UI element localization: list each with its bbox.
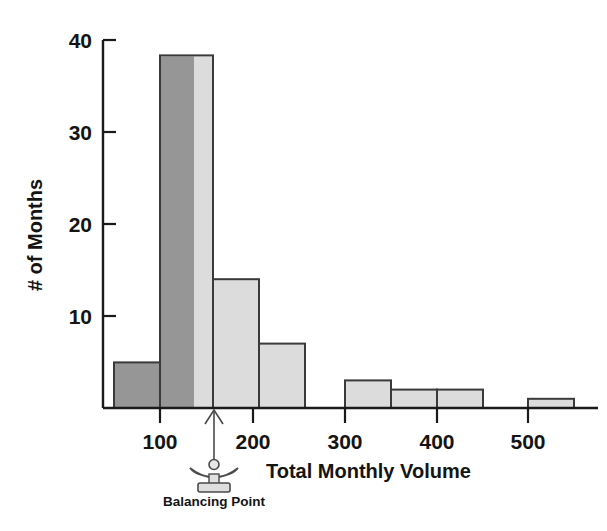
- x-tick-label-200: 200: [235, 430, 270, 453]
- bar-300-350: [345, 380, 391, 408]
- x-axis-title: Total Monthly Volume: [266, 460, 471, 482]
- y-tick-label-40: 40: [69, 29, 92, 52]
- bar-200-250: [259, 344, 305, 408]
- bar-150-200: [213, 279, 259, 408]
- x-tick-label-300: 300: [327, 430, 362, 453]
- bar-400-450: [437, 390, 483, 408]
- y-tick-label-10: 10: [69, 305, 92, 328]
- chart-canvas: 40 30 20 10 100 200 300 400 500 # of Mon…: [0, 0, 607, 531]
- bar-350-400: [391, 390, 437, 408]
- x-tick-label-100: 100: [142, 430, 177, 453]
- x-tick-label-500: 500: [510, 430, 545, 453]
- bars-group: [114, 55, 574, 408]
- balancing-point-annotation: Balancing Point: [163, 410, 266, 509]
- bar-100-150-dark: [161, 56, 194, 408]
- balancing-point-ball: [209, 460, 219, 470]
- histogram-chart: 40 30 20 10 100 200 300 400 500 # of Mon…: [0, 0, 607, 531]
- x-tick-label-400: 400: [419, 430, 454, 453]
- y-ticks-group: [103, 40, 116, 316]
- balancing-point-base: [198, 483, 230, 492]
- y-axis-title: # of Months: [24, 179, 46, 291]
- x-ticks-group: [160, 408, 528, 423]
- y-tick-label-30: 30: [69, 121, 92, 144]
- balancing-point-label: Balancing Point: [163, 494, 266, 509]
- bar-50-100: [114, 362, 160, 408]
- y-tick-label-20: 20: [69, 213, 92, 236]
- bar-100-150-light: [194, 56, 212, 408]
- bar-500-550: [528, 399, 574, 408]
